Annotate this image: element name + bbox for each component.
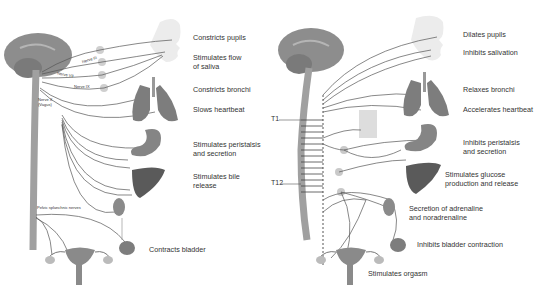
effect-dilates-pupils: Dilates pupils xyxy=(463,30,506,39)
spinal-cord-icon xyxy=(33,70,36,250)
t12-label: T12 xyxy=(271,179,283,186)
face-icon xyxy=(411,16,444,61)
bladder-icon xyxy=(390,238,406,252)
effect-inhibits-bladder: Inhibits bladder contraction xyxy=(417,240,503,249)
effect-slows-heartbeat: Slows heartbeat xyxy=(193,105,245,114)
effect-accelerates-heartbeat: Accelerates heartbeat xyxy=(463,105,533,114)
ovary-left-icon xyxy=(45,256,55,264)
left-lung-icon xyxy=(403,80,421,116)
ovary-right-icon xyxy=(103,256,113,264)
effect-inhibits-salivation: Inhibits salivation xyxy=(463,48,518,57)
spinal-cord-icon xyxy=(301,68,309,240)
adrenal-kidney-icon xyxy=(383,198,395,216)
effect-inhibits-peristalsis: Inhibits peristalsis and secretion xyxy=(463,138,520,156)
effect-stimulates-orgasm: Stimulates orgasm xyxy=(368,269,428,278)
effect-adrenaline-secretion: Secretion of adrenaline and noradrenalin… xyxy=(409,204,483,222)
uterus-icon xyxy=(336,248,366,286)
nerve-ix-label: Nerve IX xyxy=(74,85,90,90)
effect-contracts-bladder: Contracts bladder xyxy=(149,245,206,254)
trachea-icon xyxy=(423,72,426,92)
liver-icon xyxy=(406,163,441,194)
pelvic-splanchnic-nerves-label: Pelvic splanchnic nerves xyxy=(37,206,81,211)
stomach-icon xyxy=(131,129,161,156)
right-lung-icon xyxy=(427,80,449,116)
ovary-right-icon xyxy=(374,256,384,264)
stomach-icon xyxy=(405,124,437,151)
effect-stimulates-bile: Stimulates bile release xyxy=(193,172,240,190)
left-lung-icon xyxy=(132,85,150,121)
effect-constricts-pupils: Constricts pupils xyxy=(193,33,246,42)
sympathetic-panel: T1 T12 Dilates pupils Inhibits salivatio… xyxy=(271,0,542,302)
kidney-icon xyxy=(113,198,125,216)
effect-stimulates-peristalsis: Stimulates peristalsis and secretion xyxy=(193,140,261,158)
nerve-x-vagus-label: Nerve X (Vagus) xyxy=(38,98,52,107)
t1-label: T1 xyxy=(271,115,279,122)
bladder-icon xyxy=(119,241,135,255)
effect-constricts-bronchi: Constricts bronchi xyxy=(193,85,251,94)
effect-relaxes-bronchi: Relaxes bronchi xyxy=(463,85,515,94)
uterus-icon xyxy=(65,248,95,286)
ovary-left-icon xyxy=(316,256,326,264)
skin-hair-icon xyxy=(359,110,377,138)
trachea-icon xyxy=(152,77,155,97)
right-lung-icon xyxy=(156,85,178,121)
parasympathetic-panel: Nerve III Nerve VII Nerve IX Nerve X (Va… xyxy=(0,0,271,302)
liver-icon xyxy=(132,168,165,199)
effect-stimulates-glucose: Stimulates glucose production and releas… xyxy=(445,170,518,188)
effect-stimulates-saliva: Stimulates flow of saliva xyxy=(193,53,241,71)
